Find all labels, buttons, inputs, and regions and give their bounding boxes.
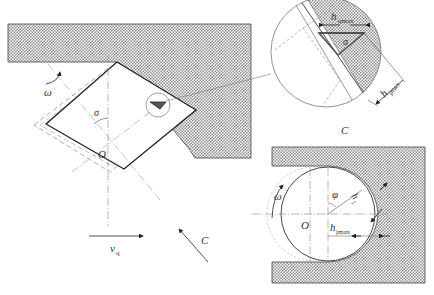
velocity-subscript: q [116, 249, 120, 257]
hqmax-label: h [331, 10, 337, 22]
detail-view: h qmax σ h jmax C [270, 0, 405, 136]
velocity-label: v [110, 242, 115, 254]
center-label-right: O [301, 219, 309, 231]
omega-label: ω [44, 86, 52, 98]
phi-label: φ [332, 188, 338, 200]
left-view: ω σ O v q C [8, 24, 271, 262]
view-direction-label: C [201, 234, 209, 246]
detail-title: C [341, 124, 349, 136]
omega-label-right: ω [274, 190, 282, 202]
hqmax-subscript: qmax [338, 17, 354, 25]
right-view: ω φ O h j h jmax [252, 147, 425, 283]
center-label: O [98, 148, 106, 160]
omega-rotation-arrow [46, 72, 60, 84]
hjmax-subscript-right: jmax [335, 228, 350, 236]
diagram-canvas: ω σ O v q C h q [0, 0, 434, 295]
